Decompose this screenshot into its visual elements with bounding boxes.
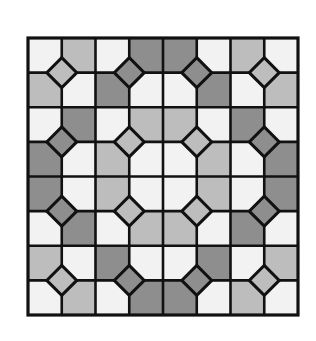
figure-canvas: Octagon-and-square tile pattern — [0, 0, 316, 341]
tile-pattern — [0, 0, 316, 341]
